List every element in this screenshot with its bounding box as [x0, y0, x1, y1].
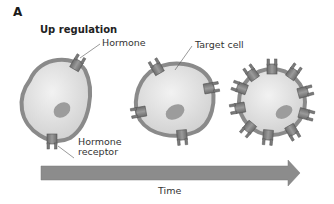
target-cell-stage-1	[21, 54, 90, 149]
label-hormone-receptor-line2: receptor	[78, 147, 118, 157]
target-cell-stage-2	[130, 58, 219, 146]
label-time: Time	[158, 186, 181, 196]
label-target-cell: Target cell	[195, 40, 244, 50]
time-arrow	[41, 160, 300, 186]
hormone-receptor-icon	[47, 134, 57, 149]
label-hormone: Hormone	[102, 38, 146, 48]
target-cell-stage-3	[229, 59, 315, 145]
diagram-canvas	[0, 0, 334, 204]
